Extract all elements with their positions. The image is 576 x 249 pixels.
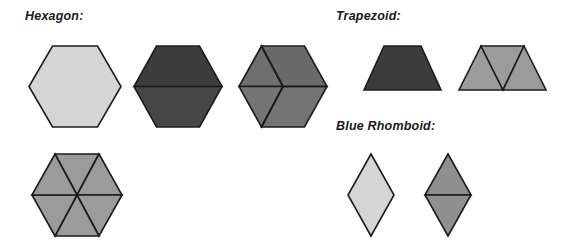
trapezoid-section-label: Trapezoid: — [336, 9, 401, 23]
rhomboid-triangle-top — [425, 154, 471, 195]
hexagon-upper-trapezoid — [134, 46, 222, 87]
trapezoid-whole — [363, 45, 442, 91]
rhomboid-whole — [347, 153, 395, 237]
trapezoid-three-triangles — [458, 45, 547, 91]
worksheet-figure: Hexagon: Trapezoid: Blue Rhomboid: — [0, 0, 576, 249]
blue-rhomboid-section-label: Blue Rhomboid: — [336, 119, 435, 133]
rhomboid-triangle-bottom — [425, 195, 471, 236]
trapezoid-whole-body — [364, 46, 441, 90]
rhomboid-whole-body — [348, 154, 394, 236]
hexagon-whole — [28, 45, 122, 128]
hexagon-six-triangles — [31, 153, 123, 237]
hexagon-lower-trapezoid — [134, 87, 222, 128]
hexagon-whole-body — [29, 46, 121, 127]
rhomboid-two-triangles — [424, 153, 472, 237]
hexagon-section-label: Hexagon: — [25, 9, 84, 23]
hexagon-two-trapezoids — [133, 45, 223, 128]
hexagon-three-rhombi — [238, 45, 328, 128]
